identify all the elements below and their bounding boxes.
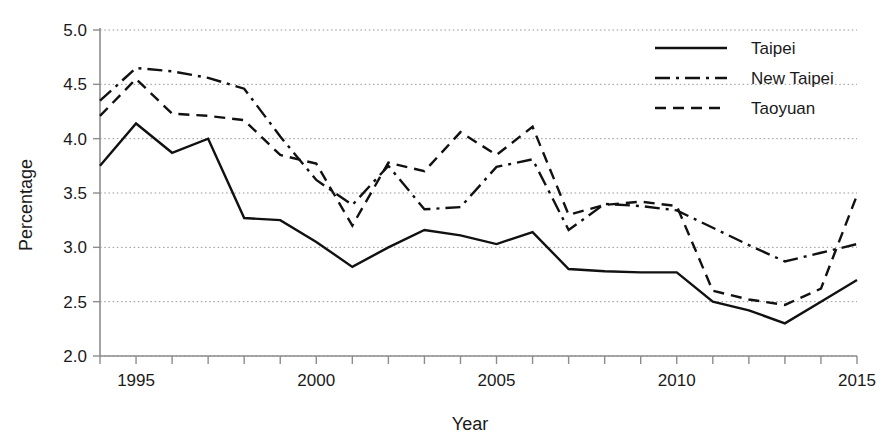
- y-tick-label: 3.0: [63, 238, 87, 257]
- legend-label-taipei: Taipei: [751, 39, 795, 58]
- y-tick-label: 2.0: [63, 347, 87, 366]
- y-tick-label: 4.0: [63, 130, 87, 149]
- line-chart: 2.02.53.03.54.04.55.0 199520002005201020…: [0, 0, 886, 440]
- y-tick-label: 3.5: [63, 184, 87, 203]
- y-tick-label: 5.0: [63, 21, 87, 40]
- chart-canvas: 2.02.53.03.54.04.55.0 199520002005201020…: [0, 0, 886, 440]
- x-tick-label: 2015: [838, 371, 876, 390]
- x-tick-label: 2000: [297, 371, 335, 390]
- y-tick-label: 4.5: [63, 75, 87, 94]
- legend-label-new-taipei: New Taipei: [751, 69, 834, 88]
- y-axis-title: Percentage: [16, 159, 36, 251]
- x-axis-title: Year: [452, 414, 488, 434]
- x-tick-label: 1995: [117, 371, 155, 390]
- x-tick-label: 2010: [658, 371, 696, 390]
- y-tick-label: 2.5: [63, 293, 87, 312]
- legend-label-taoyuan: Taoyuan: [751, 99, 815, 118]
- x-tick-label: 2005: [478, 371, 516, 390]
